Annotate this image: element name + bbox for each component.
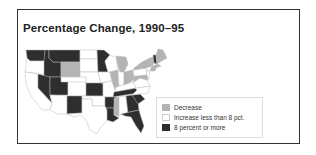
state-ks	[86, 83, 103, 96]
state-az	[50, 95, 67, 114]
state-ut	[50, 77, 68, 95]
legend-swatch	[162, 124, 170, 131]
state-ne	[80, 72, 101, 83]
state-ms	[114, 97, 119, 116]
state-nm	[67, 96, 82, 114]
legend-label: Increase less than 8 pct.	[174, 113, 244, 122]
legend-item-decrease: Decrease	[162, 103, 202, 112]
state-wa	[26, 50, 45, 61]
state-co	[68, 82, 86, 96]
state-me	[156, 49, 167, 64]
legend-swatch	[162, 104, 170, 111]
state-mt	[49, 50, 80, 62]
legend-swatch	[162, 114, 170, 121]
state-wy	[61, 62, 80, 77]
state-in	[118, 72, 124, 86]
state-nd	[80, 50, 98, 59]
legend-label: Decrease	[174, 103, 202, 112]
state-ct	[150, 68, 156, 71]
legend-label: 8 percent or more	[174, 123, 225, 132]
state-ny	[133, 58, 152, 70]
legend-item-small-increase: Increase less than 8 pct.	[162, 113, 244, 122]
legend-item-large-increase: 8 percent or more	[162, 123, 225, 132]
state-fl	[121, 110, 144, 133]
state-sd	[80, 59, 98, 72]
legend: Decrease Increase less than 8 pct. 8 per…	[156, 97, 263, 138]
